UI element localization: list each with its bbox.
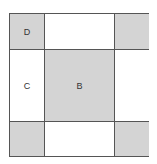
cell-bottom-left (10, 122, 45, 156)
cell-top-right (115, 14, 149, 50)
cell-c: C (10, 50, 45, 122)
label-d: D (24, 27, 31, 37)
cell-top-middle (45, 14, 115, 50)
label-b: B (76, 81, 82, 91)
label-c: C (24, 81, 31, 91)
square-grid-diagram: D C B (9, 13, 149, 157)
cell-middle-right (115, 50, 149, 122)
cell-d: D (10, 14, 45, 50)
cell-b: B (45, 50, 115, 122)
cell-bottom-right (115, 122, 149, 156)
cell-bottom-middle (45, 122, 115, 156)
